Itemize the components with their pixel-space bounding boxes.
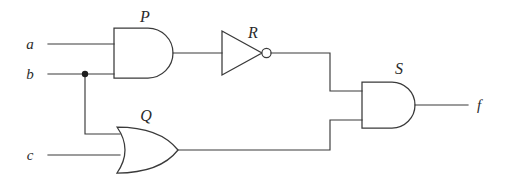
junction-dot-b [82, 71, 88, 77]
or-gate-q-body [117, 127, 178, 173]
input-label-b: b [26, 66, 34, 82]
gate-label-s: S [395, 60, 403, 77]
and-gate-s-body [362, 82, 415, 128]
gate-label-q: Q [140, 107, 152, 124]
output-label-f: f [477, 97, 483, 113]
and-gate-p-body [114, 28, 173, 78]
wire-b-branch-to-or [85, 74, 120, 134]
gate-label-r: R [247, 24, 258, 41]
gate-label-p: P [139, 8, 150, 25]
input-label-a: a [26, 36, 34, 52]
wire-q-output-to-s [178, 120, 362, 150]
wire-r-output-to-s [271, 53, 362, 91]
input-label-c: c [27, 147, 34, 163]
circuit-svg-canvas: P R Q S a b c f [0, 0, 512, 186]
not-gate-r-bubble-icon [262, 48, 271, 57]
logic-circuit-diagram: P R Q S a b c f [0, 0, 512, 186]
